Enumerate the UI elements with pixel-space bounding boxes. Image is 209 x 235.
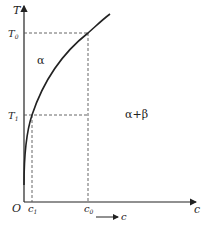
x-axis-label: c — [194, 203, 200, 216]
y-axis-label: T — [13, 4, 22, 17]
c0-label: c0 — [84, 203, 94, 215]
direction-arrow-label: c — [121, 211, 127, 222]
origin-label: O — [12, 202, 21, 215]
solvus-curve — [24, 14, 110, 185]
alpha-beta-region-label: α+β — [125, 108, 148, 121]
t0-label: T0 — [8, 28, 19, 40]
alpha-region-label: α — [37, 54, 45, 67]
phase-diagram: T c O T0 T1 c1 c0 α α+β c — [0, 0, 209, 235]
t1-label: T1 — [8, 110, 19, 122]
c1-label: c1 — [28, 203, 37, 215]
